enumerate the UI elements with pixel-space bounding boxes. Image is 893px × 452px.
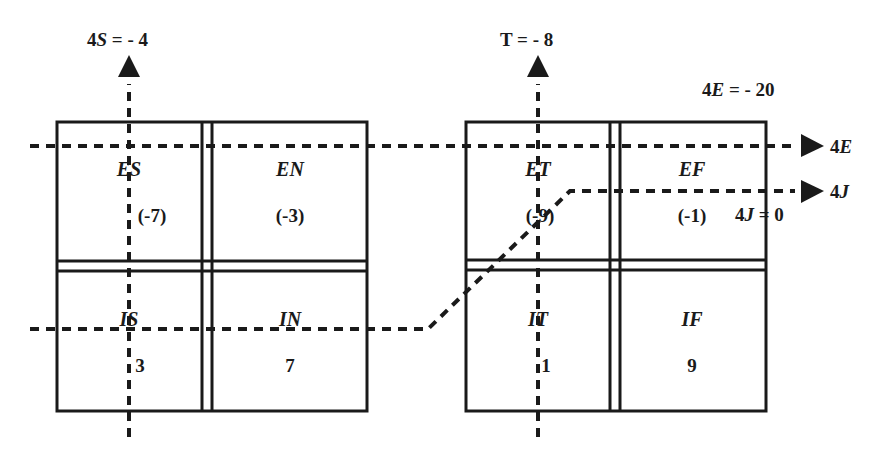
j-axis-prefix: 4 xyxy=(735,204,745,225)
j-arrow-prefix: 4 xyxy=(830,181,840,202)
cell-et-label: ET xyxy=(525,159,551,179)
cell-es-value: (-7) xyxy=(138,206,166,225)
cell-en-value: (-3) xyxy=(276,206,304,225)
j-arrow-var: J xyxy=(840,181,850,202)
s-axis-value: = - 4 xyxy=(112,29,148,50)
cell-in-value: 7 xyxy=(285,356,295,375)
e-axis-arrow-label: 4E xyxy=(830,137,852,156)
j-axis-total-label: 4J = 0 xyxy=(735,205,784,224)
e-axis-arrow-icon xyxy=(801,134,824,157)
cell-if-label: IF xyxy=(681,309,702,329)
e-axis-total-label: 4E = - 20 xyxy=(702,80,775,99)
e-axis-var: E xyxy=(712,79,725,100)
t-axis-arrow-icon xyxy=(527,55,549,77)
cell-it-label: IT xyxy=(528,309,548,329)
t-axis-label: T = - 8 xyxy=(500,30,553,49)
cell-in-label: IN xyxy=(279,309,301,329)
j-axis-arrow-label: 4J xyxy=(830,182,849,201)
cell-is-label: IS xyxy=(120,309,139,329)
e-axis-value: = - 20 xyxy=(729,79,775,100)
s-axis-label: 4S = - 4 xyxy=(87,30,148,49)
cell-ef-value: (-1) xyxy=(678,206,706,225)
j-axis-var: J xyxy=(745,204,755,225)
cell-it-value: 1 xyxy=(541,356,551,375)
e-axis-prefix: 4 xyxy=(702,79,712,100)
j-axis-arrow-icon xyxy=(801,180,824,203)
left-grid xyxy=(57,122,367,411)
cell-es-label: ES xyxy=(117,159,141,179)
cell-et-value: (-9) xyxy=(526,206,554,225)
s-axis-prefix: 4 xyxy=(87,29,97,50)
j-axis-value: = 0 xyxy=(759,204,784,225)
right-grid xyxy=(466,122,766,411)
e-arrow-prefix: 4 xyxy=(830,136,840,157)
e-arrow-var: E xyxy=(840,136,853,157)
cell-en-label: EN xyxy=(276,159,304,179)
diagram-canvas xyxy=(0,0,893,452)
cell-is-value: 3 xyxy=(135,356,145,375)
s-axis-arrow-icon xyxy=(118,55,140,77)
cell-ef-label: EF xyxy=(679,159,706,179)
s-axis-var: S xyxy=(97,29,108,50)
cell-if-value: 9 xyxy=(687,356,697,375)
